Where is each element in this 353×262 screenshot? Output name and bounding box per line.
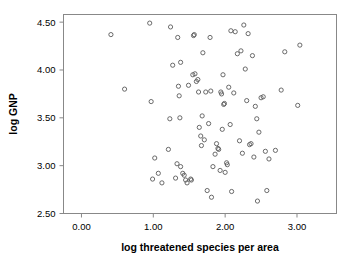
data-point xyxy=(296,103,300,107)
data-point xyxy=(176,84,180,88)
data-point xyxy=(177,94,181,98)
y-tick-label: 4.00 xyxy=(37,64,56,75)
data-point xyxy=(122,87,126,91)
data-point xyxy=(197,125,201,129)
data-point xyxy=(208,35,212,39)
data-point xyxy=(218,168,222,172)
data-point xyxy=(257,130,261,134)
data-point xyxy=(179,165,183,169)
data-point xyxy=(279,88,283,92)
x-tick-label: 2.00 xyxy=(216,221,235,232)
data-point xyxy=(166,147,170,151)
data-point xyxy=(245,99,249,103)
data-point xyxy=(298,43,302,47)
data-point xyxy=(232,91,236,95)
plot-canvas: 2.503.003.504.004.50 0.001.002.003.00 lo… xyxy=(0,0,353,262)
x-axis-title: log threatened species per area xyxy=(121,241,279,253)
data-point xyxy=(239,49,243,53)
data-point xyxy=(223,170,227,174)
y-axis-tick-labels: 2.503.003.504.004.50 xyxy=(37,17,56,219)
data-point xyxy=(265,188,269,192)
plot-frame xyxy=(64,15,337,214)
data-point xyxy=(196,90,200,94)
data-point xyxy=(202,138,206,142)
y-tick-label: 4.50 xyxy=(37,17,56,28)
data-point xyxy=(211,165,215,169)
data-point xyxy=(263,149,267,153)
data-point xyxy=(233,30,237,34)
data-point xyxy=(168,117,172,121)
data-point xyxy=(227,85,231,89)
data-point xyxy=(228,122,232,126)
x-axis-ticks xyxy=(81,214,297,218)
data-point xyxy=(153,156,157,160)
data-point xyxy=(255,199,259,203)
data-point xyxy=(267,157,271,161)
data-point xyxy=(213,152,217,156)
data-point xyxy=(148,21,152,25)
scatter-data-points xyxy=(109,21,302,203)
data-point xyxy=(160,181,164,185)
data-point xyxy=(250,54,254,58)
data-point xyxy=(240,151,244,155)
data-point xyxy=(207,121,211,125)
data-point xyxy=(179,60,183,64)
data-point xyxy=(186,83,190,87)
data-point xyxy=(229,29,233,33)
data-point xyxy=(199,143,203,147)
data-point xyxy=(200,114,204,118)
y-tick-label: 2.50 xyxy=(37,208,56,219)
data-point xyxy=(176,35,180,39)
data-point xyxy=(156,171,160,175)
data-point xyxy=(204,90,208,94)
scatter-plot-figure: 2.503.003.504.004.50 0.001.002.003.00 lo… xyxy=(0,0,353,262)
data-point xyxy=(220,127,224,131)
data-point xyxy=(242,23,246,27)
data-point xyxy=(199,134,203,138)
x-tick-label: 3.00 xyxy=(288,221,307,232)
data-point xyxy=(205,188,209,192)
data-point xyxy=(168,25,172,29)
data-point xyxy=(253,104,257,108)
data-point xyxy=(109,32,113,36)
x-axis-tick-labels: 0.001.002.003.00 xyxy=(72,221,306,232)
data-point xyxy=(221,73,225,77)
data-point xyxy=(273,148,277,152)
data-point xyxy=(246,32,250,36)
data-point xyxy=(173,176,177,180)
x-tick-label: 1.00 xyxy=(144,221,163,232)
data-point xyxy=(214,142,218,146)
x-tick-label: 0.00 xyxy=(72,221,91,232)
data-point xyxy=(209,89,213,93)
y-axis-title: log GNP xyxy=(7,93,19,134)
y-axis-ticks xyxy=(60,22,64,213)
data-point xyxy=(171,63,175,67)
data-point xyxy=(149,99,153,103)
data-point xyxy=(243,67,247,71)
data-point xyxy=(178,116,182,120)
data-point xyxy=(237,139,241,143)
y-tick-label: 3.50 xyxy=(37,112,56,123)
y-tick-label: 3.00 xyxy=(37,160,56,171)
data-point xyxy=(150,177,154,181)
data-point xyxy=(283,50,287,54)
data-point xyxy=(255,117,259,121)
data-point xyxy=(230,189,234,193)
data-point xyxy=(201,51,205,55)
data-point xyxy=(209,195,213,199)
data-point xyxy=(252,155,256,159)
